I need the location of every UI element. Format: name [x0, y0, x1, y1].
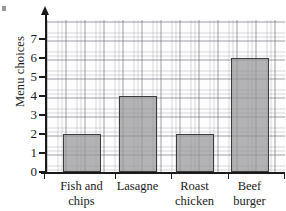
y-axis-tick — [39, 95, 46, 96]
y-axis-tick-label: 2 — [18, 127, 37, 140]
x-axis-tick — [115, 172, 116, 179]
bar — [63, 134, 101, 172]
x-axis-tick — [171, 172, 172, 179]
bar-chart: Menu choices 01234567 Fish and chipsLasa… — [0, 0, 285, 211]
bar — [231, 58, 269, 172]
bar — [176, 134, 214, 172]
y-axis-tick — [39, 57, 46, 58]
y-axis-tick — [39, 133, 46, 134]
x-axis-tick — [284, 172, 285, 179]
y-axis-tick — [39, 76, 46, 77]
x-axis-tick — [228, 172, 229, 179]
bar — [119, 96, 157, 172]
y-axis-tick — [39, 152, 46, 153]
x-axis-line — [41, 172, 285, 174]
category-label: Beef burger — [214, 179, 286, 208]
y-axis-tick — [39, 38, 46, 39]
y-axis-tick — [39, 114, 46, 115]
y-axis-tick-label: 3 — [18, 108, 37, 121]
y-axis-tick-label: 4 — [18, 89, 37, 102]
y-axis-tick-label: 5 — [18, 70, 37, 83]
y-axis-tick-label: 0 — [18, 165, 37, 178]
corner-speck — [2, 6, 6, 11]
y-axis-tick-label: 6 — [18, 51, 37, 64]
y-axis-tick-label: 7 — [18, 32, 37, 45]
x-axis-tick — [44, 172, 45, 179]
y-axis-arrow-icon — [41, 6, 49, 15]
y-axis-tick-label: 1 — [18, 146, 37, 159]
